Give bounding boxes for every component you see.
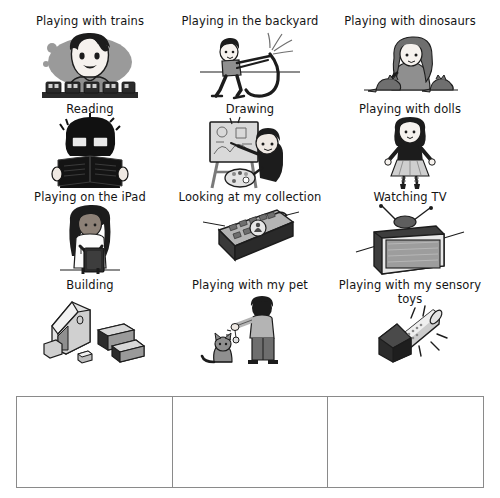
train-play-icon — [15, 28, 165, 102]
flashlight-icon — [335, 306, 485, 366]
television-icon — [335, 204, 485, 278]
activity-label-pet: Playing with my pet — [192, 278, 308, 292]
answer-table — [16, 396, 484, 488]
answer-cell-3[interactable] — [328, 397, 483, 487]
activity-label-sensory: Playing with my sensory toys — [332, 278, 488, 306]
answer-cell-1[interactable] — [17, 397, 173, 487]
activity-label-tv: Watching TV — [373, 190, 446, 204]
tablet-play-icon — [15, 204, 165, 278]
dinosaur-play-icon — [335, 28, 485, 102]
activity-card-dinosaurs[interactable]: Playing with dinosaurs — [330, 14, 490, 102]
activity-label-dinosaurs: Playing with dinosaurs — [344, 14, 476, 28]
activity-card-tv[interactable]: Watching TV — [330, 190, 490, 278]
activity-grid: Playing with trains — [10, 14, 490, 366]
activity-card-building[interactable]: Building — [10, 278, 170, 366]
activity-card-dolls[interactable]: Playing with dolls — [330, 102, 490, 190]
activity-card-pet[interactable]: Playing with my pet — [170, 278, 330, 366]
activity-label-ipad: Playing on the iPad — [34, 190, 146, 204]
easel-painting-icon — [175, 116, 325, 190]
activity-card-trains[interactable]: Playing with trains — [10, 14, 170, 102]
building-blocks-icon — [15, 292, 165, 366]
doll-icon — [335, 116, 485, 190]
activity-label-dolls: Playing with dolls — [359, 102, 461, 116]
activity-card-collection[interactable]: Looking at my collection — [170, 190, 330, 278]
answer-cell-2[interactable] — [173, 397, 329, 487]
activity-label-drawing: Drawing — [226, 102, 275, 116]
reading-book-icon — [15, 116, 165, 190]
collection-box-icon — [175, 204, 325, 264]
activity-card-backyard[interactable]: Playing in the backyard — [170, 14, 330, 102]
activity-label-trains: Playing with trains — [36, 14, 144, 28]
activity-card-drawing[interactable]: Drawing — [170, 102, 330, 190]
hose-backyard-icon — [175, 28, 325, 102]
worksheet-page: Playing with trains — [0, 0, 500, 498]
activity-label-building: Building — [66, 278, 113, 292]
activity-card-reading[interactable]: Reading — [10, 102, 170, 190]
activity-label-backyard: Playing in the backyard — [182, 14, 319, 28]
activity-card-ipad[interactable]: Playing on the iPad — [10, 190, 170, 278]
activity-card-sensory[interactable]: Playing with my sensory toys — [330, 278, 490, 366]
pet-cat-icon — [175, 292, 325, 366]
